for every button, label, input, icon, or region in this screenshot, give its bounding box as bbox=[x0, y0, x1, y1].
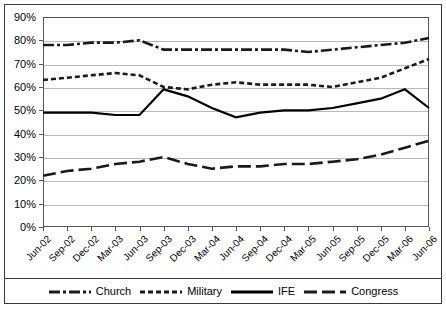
y-tick-label: 90% bbox=[14, 12, 36, 23]
x-tick-label: Jun-06 bbox=[410, 234, 439, 263]
y-tick-label: 0% bbox=[20, 222, 36, 233]
y-tick-label: 50% bbox=[14, 105, 36, 116]
x-tick-mark bbox=[43, 227, 44, 231]
legend-label: Church bbox=[96, 286, 131, 297]
x-tick-mark bbox=[212, 227, 213, 231]
y-tick-label: 20% bbox=[14, 175, 36, 186]
x-tick-mark bbox=[115, 227, 116, 231]
series-line-ife bbox=[43, 89, 429, 117]
x-tick-label: Mar-06 bbox=[385, 234, 414, 263]
y-tick-label: 70% bbox=[14, 58, 36, 69]
legend-label: Congress bbox=[351, 286, 398, 297]
y-tick-label: 10% bbox=[14, 198, 36, 209]
legend-item-military[interactable]: Military bbox=[139, 286, 222, 297]
y-tick-label: 80% bbox=[14, 35, 36, 46]
x-tick-mark bbox=[260, 227, 261, 231]
x-tick-label: Dec-04 bbox=[264, 234, 294, 264]
legend-label: Military bbox=[187, 286, 222, 297]
x-tick-mark bbox=[140, 227, 141, 231]
x-tick-mark bbox=[357, 227, 358, 231]
x-tick-label: Mar-03 bbox=[96, 234, 125, 263]
legend-item-congress[interactable]: Congress bbox=[303, 286, 398, 297]
chart-figure: 0%10%20%30%40%50%60%70%80%90% Jun-02Sep-… bbox=[0, 0, 446, 315]
series-line-military bbox=[43, 59, 429, 89]
x-tick-mark bbox=[67, 227, 68, 231]
y-tick-label: 60% bbox=[14, 82, 36, 93]
y-tick-label: 40% bbox=[14, 128, 36, 139]
x-tick-label: Mar-05 bbox=[289, 234, 318, 263]
x-tick-mark bbox=[91, 227, 92, 231]
x-axis: Jun-02Sep-02Dec-02Mar-03Jun-03Sep-03Dec-… bbox=[43, 227, 429, 279]
legend-swatch-ife-icon bbox=[230, 287, 274, 297]
x-tick-label: Mar-04 bbox=[192, 234, 221, 263]
x-tick-mark bbox=[164, 227, 165, 231]
x-tick-mark bbox=[188, 227, 189, 231]
y-tick-label: 30% bbox=[14, 152, 36, 163]
series-layer bbox=[43, 17, 429, 227]
plot-region: 0%10%20%30%40%50%60%70%80%90% Jun-02Sep-… bbox=[0, 0, 446, 278]
series-line-congress bbox=[43, 141, 429, 176]
legend-item-ife[interactable]: IFE bbox=[230, 286, 295, 297]
x-tick-mark bbox=[308, 227, 309, 231]
legend-swatch-congress-icon bbox=[303, 287, 347, 297]
x-tick-label: Dec-02 bbox=[71, 234, 101, 264]
x-tick-mark bbox=[333, 227, 334, 231]
x-tick-mark bbox=[236, 227, 237, 231]
chart-legend: ChurchMilitaryIFECongress bbox=[5, 279, 441, 304]
y-axis: 0%10%20%30%40%50%60%70%80%90% bbox=[0, 0, 43, 244]
x-tick-mark bbox=[429, 227, 430, 231]
legend-swatch-church-icon bbox=[48, 287, 92, 297]
series-line-church bbox=[43, 38, 429, 52]
x-tick-mark bbox=[284, 227, 285, 231]
x-tick-mark bbox=[405, 227, 406, 231]
legend-item-church[interactable]: Church bbox=[48, 286, 131, 297]
x-tick-mark bbox=[381, 227, 382, 231]
legend-swatch-military-icon bbox=[139, 287, 183, 297]
legend-label: IFE bbox=[278, 286, 295, 297]
